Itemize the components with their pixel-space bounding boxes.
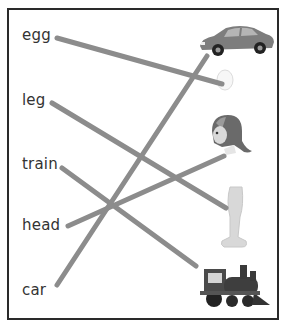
line-egg-to-egg xyxy=(57,38,222,84)
line-car-to-car xyxy=(57,56,207,285)
matching-lines xyxy=(0,0,287,331)
